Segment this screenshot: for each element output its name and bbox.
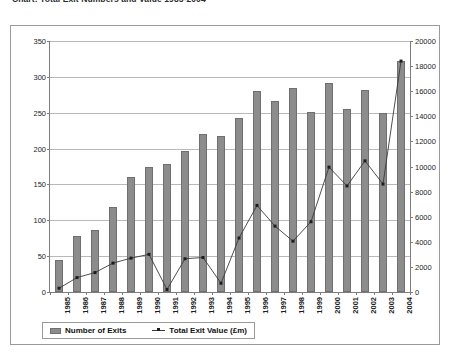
x-axis-tick — [194, 292, 195, 295]
y-axis-right-label: 4000 — [415, 237, 432, 246]
gridline — [50, 184, 410, 185]
y-axis-left-label: 0 — [42, 288, 46, 297]
x-axis-label: 1992 — [189, 297, 198, 314]
x-axis-label: 1994 — [225, 297, 234, 314]
y-axis-left-tick — [47, 77, 50, 78]
y-axis-right-label: 18000 — [415, 62, 436, 71]
y-axis-left-label: 150 — [33, 180, 46, 189]
y-axis-left-label: 200 — [33, 144, 46, 153]
x-axis-label: 2000 — [333, 297, 342, 314]
y-axis-right-label: 20000 — [415, 37, 436, 46]
gridline — [50, 149, 410, 150]
x-axis-label: 1985 — [63, 297, 72, 314]
y-axis-right-tick — [410, 66, 413, 67]
chart-legend: Number of Exits Total Exit Value (£m) — [42, 322, 255, 339]
y-axis-left-tick — [47, 113, 50, 114]
y-axis-right-tick — [410, 41, 413, 42]
x-axis-tick — [356, 292, 357, 295]
x-axis-label: 1986 — [81, 297, 90, 314]
gridline — [50, 41, 410, 42]
gridline — [50, 256, 410, 257]
legend-label-line: Total Exit Value (£m) — [169, 326, 247, 335]
bar — [361, 90, 369, 292]
x-axis-label: 1998 — [297, 297, 306, 314]
y-axis-left-label: 250 — [33, 108, 46, 117]
x-axis-tick — [122, 292, 123, 295]
x-axis-tick — [392, 292, 393, 295]
line-series — [50, 41, 410, 292]
x-axis-label: 2003 — [387, 297, 396, 314]
chart-title: Chart: Total Exit Numbers and Value 1985… — [12, 0, 432, 4]
y-axis-left-tick — [47, 292, 50, 293]
y-axis-right-tick — [410, 141, 413, 142]
gridline — [50, 77, 410, 78]
x-axis-label: 1997 — [279, 297, 288, 314]
y-axis-left-tick — [47, 41, 50, 42]
legend-label-bar: Number of Exits — [65, 326, 126, 335]
y-axis-right-tick — [410, 192, 413, 193]
x-axis-label: 1987 — [99, 297, 108, 314]
y-axis-left-label: 300 — [33, 72, 46, 81]
x-axis-tick — [212, 292, 213, 295]
x-axis-tick — [140, 292, 141, 295]
bar — [127, 177, 135, 292]
x-axis-tick — [302, 292, 303, 295]
y-axis-right-tick — [410, 91, 413, 92]
bar — [271, 101, 279, 292]
x-axis-label: 2004 — [405, 297, 414, 314]
y-axis-left-tick — [47, 149, 50, 150]
x-axis-tick — [338, 292, 339, 295]
x-axis-tick — [374, 292, 375, 295]
x-axis-tick — [266, 292, 267, 295]
bar — [73, 236, 81, 292]
bar — [325, 83, 333, 292]
y-axis-right-tick — [410, 292, 413, 293]
bar — [163, 164, 171, 292]
bar — [217, 136, 225, 292]
y-axis-right-label: 2000 — [415, 262, 432, 271]
x-axis-label: 1995 — [243, 297, 252, 314]
x-axis-label: 1999 — [315, 297, 324, 314]
bar — [379, 113, 387, 292]
bar — [397, 61, 405, 292]
bar — [289, 88, 297, 292]
y-axis-right-label: 0 — [415, 288, 419, 297]
y-axis-right-label: 14000 — [415, 112, 436, 121]
y-axis-left-label: 100 — [33, 216, 46, 225]
x-axis-label: 2002 — [369, 297, 378, 314]
bar — [343, 109, 351, 292]
bar — [55, 260, 63, 292]
x-axis-tick — [320, 292, 321, 295]
y-axis-right-label: 6000 — [415, 212, 432, 221]
line-swatch-icon — [152, 327, 165, 334]
x-axis-tick — [50, 292, 51, 295]
bar — [307, 112, 315, 292]
x-axis-tick — [248, 292, 249, 295]
y-axis-left-label: 50 — [38, 252, 46, 261]
x-axis-label: 1989 — [135, 297, 144, 314]
y-axis-right-label: 12000 — [415, 137, 436, 146]
x-axis-label: 2001 — [351, 297, 360, 314]
x-axis-tick — [104, 292, 105, 295]
x-axis-label: 1993 — [207, 297, 216, 314]
x-axis-label: 1991 — [171, 297, 180, 314]
x-axis-tick — [68, 292, 69, 295]
bar — [253, 91, 261, 292]
y-axis-right-label: 10000 — [415, 162, 436, 171]
x-axis-label: 1996 — [261, 297, 270, 314]
y-axis-left-label: 350 — [33, 37, 46, 46]
x-axis-label: 1988 — [117, 297, 126, 314]
y-axis-right-tick — [410, 267, 413, 268]
bar — [109, 207, 117, 292]
bar — [91, 230, 99, 292]
legend-item-total-exit-value: Total Exit Value (£m) — [152, 326, 247, 335]
bar-swatch-icon — [50, 328, 61, 334]
bar — [199, 134, 207, 292]
y-axis-left-tick — [47, 184, 50, 185]
gridline — [50, 220, 410, 221]
y-axis-right-label: 8000 — [415, 187, 432, 196]
x-axis-tick — [230, 292, 231, 295]
y-axis-right-tick — [410, 242, 413, 243]
y-axis-right-tick — [410, 167, 413, 168]
y-axis-right-tick — [410, 116, 413, 117]
